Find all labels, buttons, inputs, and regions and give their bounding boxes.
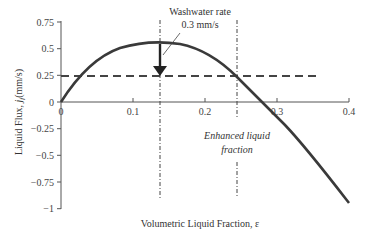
x-axis [61, 98, 349, 102]
x-tick-label: 0.1 [127, 106, 140, 117]
x-axis-label: Volumetric Liquid Fraction, ε [141, 218, 259, 229]
annotation-enhanced: Enhanced liquid [203, 130, 271, 141]
annotation-rate: 0.3 mm/s [181, 19, 218, 30]
y-tick-label: −0.5 [36, 150, 54, 161]
x-tick-label: 0.4 [343, 106, 356, 117]
annotation-fraction: fraction [221, 144, 253, 155]
annotation-washwater: Washwater rate [169, 6, 231, 17]
y-tick-label: −1 [43, 203, 54, 214]
x-tick-label: 0.2 [199, 106, 212, 117]
y-axis-label: Liquid Flux, jf(mm/s) [13, 69, 26, 155]
y-tick-label: 0 [49, 97, 54, 108]
y-tick-labels: 0.75 0.5 0.25 0 −0.25 −0.5 −0.75 −1 [31, 17, 54, 215]
chart-canvas: 0.75 0.5 0.25 0 −0.25 −0.5 −0.75 −1 0 0.… [0, 0, 371, 233]
arrow-icon [153, 44, 167, 76]
y-tick-label: −0.25 [31, 123, 54, 134]
flux-curve [61, 42, 349, 203]
x-tick-label: 0 [59, 106, 64, 117]
y-tick-label: 0.5 [42, 43, 55, 54]
y-tick-label: 0.25 [37, 70, 55, 81]
y-tick-label: 0.75 [37, 17, 55, 28]
y-tick-label: −0.75 [31, 177, 54, 188]
x-tick-labels: 0 0.1 0.2 0.3 0.4 [59, 106, 356, 117]
